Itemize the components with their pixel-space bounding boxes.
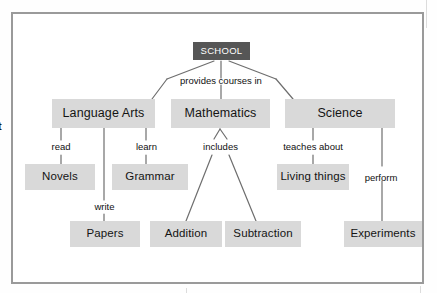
node-language-arts[interactable]: Language Arts	[52, 99, 155, 128]
link-mathematics-includes-right	[220, 129, 227, 139]
node-subtraction[interactable]: Subtraction	[225, 221, 301, 247]
link-label-teaches-about: teaches about	[277, 142, 349, 152]
node-school-label: SCHOOL	[201, 46, 243, 56]
node-mathematics[interactable]: Mathematics	[171, 99, 270, 128]
node-papers[interactable]: Papers	[70, 221, 140, 247]
concept-map-canvas: SCHOOL provides courses in Language Arts…	[0, 0, 437, 293]
link-school-science-lower	[276, 79, 293, 99]
node-grammar[interactable]: Grammar	[112, 164, 188, 190]
node-language-arts-label: Language Arts	[63, 107, 145, 120]
node-school[interactable]: SCHOOL	[193, 42, 250, 60]
node-experiments[interactable]: Experiments	[344, 221, 422, 247]
link-label-perform: perform	[355, 173, 407, 183]
link-school-language-arts-lower	[152, 79, 167, 99]
node-science-label: Science	[317, 107, 362, 120]
link-includes-subtraction	[229, 155, 256, 221]
link-mathematics-includes-left	[214, 129, 220, 139]
node-novels-label: Novels	[42, 171, 78, 183]
node-addition-label: Addition	[165, 228, 207, 240]
node-science[interactable]: Science	[285, 99, 395, 128]
link-label-provides-courses-in: provides courses in	[172, 76, 270, 86]
scanned-page: t	[0, 0, 437, 293]
node-living-things-label: Living things	[280, 171, 345, 183]
link-includes-addition	[186, 155, 212, 221]
link-label-read: read	[44, 142, 78, 152]
node-subtraction-label: Subtraction	[233, 228, 292, 240]
node-papers-label: Papers	[86, 228, 123, 240]
node-grammar-label: Grammar	[125, 171, 174, 183]
node-novels[interactable]: Novels	[25, 164, 95, 190]
node-mathematics-label: Mathematics	[185, 107, 257, 120]
link-label-learn: learn	[128, 142, 165, 152]
link-label-write: write	[86, 202, 123, 212]
node-living-things[interactable]: Living things	[277, 164, 349, 190]
node-experiments-label: Experiments	[350, 228, 415, 240]
node-addition[interactable]: Addition	[150, 221, 222, 247]
link-label-includes: includes	[195, 142, 246, 152]
